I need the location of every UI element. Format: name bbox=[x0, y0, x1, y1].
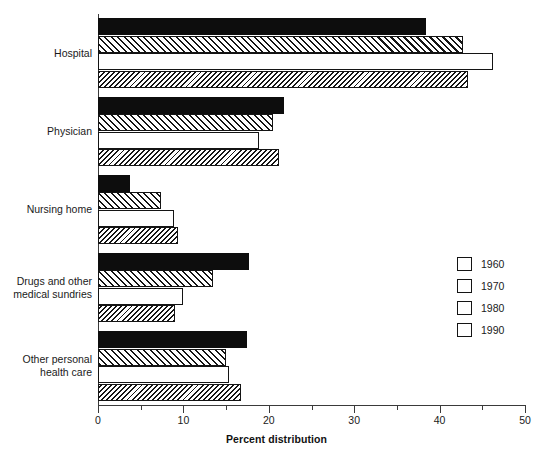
bar-hospital-1970 bbox=[98, 36, 463, 53]
legend-item-1960: 1960 bbox=[457, 255, 549, 277]
bar-hospital-1980 bbox=[98, 53, 493, 70]
x-tick-minor-5 bbox=[141, 406, 142, 410]
category-label-physician: Physician bbox=[0, 125, 92, 138]
legend-swatch-1990 bbox=[457, 323, 472, 337]
category-label-line: Physician bbox=[0, 125, 92, 138]
x-axis-title: Percent distribution bbox=[0, 433, 553, 445]
category-label-hospital: Hospital bbox=[0, 47, 92, 60]
x-tick-label-0: 0 bbox=[83, 414, 113, 426]
legend-label-1970: 1970 bbox=[481, 279, 504, 293]
x-tick-minor-15 bbox=[226, 406, 227, 410]
legend-label-1990: 1990 bbox=[481, 323, 504, 337]
x-tick-minor-35 bbox=[397, 406, 398, 410]
x-tick-label-30: 30 bbox=[339, 414, 369, 426]
legend-item-1980: 1980 bbox=[457, 299, 549, 321]
category-label-drugs-and-other-medical-sundries: Drugs and othermedical sundries bbox=[0, 275, 92, 300]
x-tick-major-50 bbox=[525, 406, 526, 413]
bar-drugs-and-other-medical-sundries-1960 bbox=[98, 253, 249, 270]
category-label-line: Other personal bbox=[0, 353, 92, 366]
category-label-line: medical sundries bbox=[0, 288, 92, 301]
x-tick-label-40: 40 bbox=[425, 414, 455, 426]
x-tick-major-40 bbox=[440, 406, 441, 413]
bar-other-personal-health-care-1980 bbox=[98, 366, 229, 383]
bar-physician-1980 bbox=[98, 132, 259, 149]
bar-nursing-home-1970 bbox=[98, 192, 161, 209]
x-tick-major-20 bbox=[269, 406, 270, 413]
category-label-line: Nursing home bbox=[0, 203, 92, 216]
legend-swatch-1970 bbox=[457, 279, 472, 293]
legend-label-1960: 1960 bbox=[481, 257, 504, 271]
legend-item-1990: 1990 bbox=[457, 321, 549, 343]
bar-drugs-and-other-medical-sundries-1980 bbox=[98, 288, 183, 305]
legend-swatch-1980 bbox=[457, 301, 472, 315]
bar-nursing-home-1990 bbox=[98, 227, 178, 244]
bar-physician-1990 bbox=[98, 149, 279, 166]
bar-nursing-home-1960 bbox=[98, 175, 130, 192]
category-label-line: Hospital bbox=[0, 47, 92, 60]
bar-physician-1970 bbox=[98, 114, 273, 131]
x-tick-label-50: 50 bbox=[510, 414, 540, 426]
bar-other-personal-health-care-1960 bbox=[98, 331, 247, 348]
category-label-other-personal-health-care: Other personalhealth care bbox=[0, 353, 92, 378]
category-label-line: health care bbox=[0, 366, 92, 379]
bar-physician-1960 bbox=[98, 97, 284, 114]
x-tick-label-10: 10 bbox=[168, 414, 198, 426]
plot-area bbox=[98, 14, 525, 405]
category-label-line: Drugs and other bbox=[0, 275, 92, 288]
x-tick-major-10 bbox=[183, 406, 184, 413]
bar-other-personal-health-care-1970 bbox=[98, 349, 226, 366]
x-tick-minor-45 bbox=[482, 406, 483, 410]
x-tick-label-20: 20 bbox=[254, 414, 284, 426]
legend: 1960197019801990 bbox=[457, 255, 549, 343]
legend-swatch-1960 bbox=[457, 257, 472, 271]
bar-other-personal-health-care-1990 bbox=[98, 384, 241, 401]
legend-label-1980: 1980 bbox=[481, 301, 504, 315]
bar-drugs-and-other-medical-sundries-1970 bbox=[98, 270, 213, 287]
x-tick-major-0 bbox=[98, 406, 99, 413]
legend-item-1970: 1970 bbox=[457, 277, 549, 299]
bar-drugs-and-other-medical-sundries-1990 bbox=[98, 305, 175, 322]
bar-hospital-1990 bbox=[98, 71, 468, 88]
x-tick-minor-25 bbox=[312, 406, 313, 410]
bar-chart: HospitalPhysicianNursing homeDrugs and o… bbox=[0, 0, 553, 457]
bar-hospital-1960 bbox=[98, 18, 426, 35]
category-label-nursing-home: Nursing home bbox=[0, 203, 92, 216]
x-tick-major-30 bbox=[354, 406, 355, 413]
bar-nursing-home-1980 bbox=[98, 210, 174, 227]
